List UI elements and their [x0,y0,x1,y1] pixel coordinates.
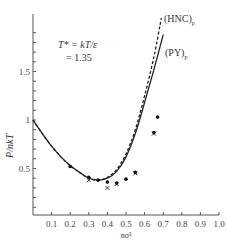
temperature-annotation-line1: T* = kT/ε [58,39,97,50]
data-point-cross [105,186,109,190]
x-tick-label: 0.7 [158,219,170,229]
x-tick-label: 0.9 [195,219,207,229]
x-tick-label: 0.2 [65,219,76,229]
x-tick-label: 0.8 [176,219,188,229]
data-point-dot [106,180,110,184]
x-tick-label: 0.1 [46,219,57,229]
x-axis-label: nσ³ [121,231,132,240]
data-point-dot [68,165,72,169]
temperature-annotation-line2: = 1.35 [66,52,92,63]
y-axis-label: P/nkT [4,133,15,159]
curves [33,18,163,180]
x-tick-label: 1.0 [213,219,225,229]
py-curve-label: (PY)p [165,47,187,60]
py-curve [33,35,163,181]
x-tick-label: 0.3 [83,219,95,229]
y-tick-label: 1.5 [19,67,31,77]
hnc-curve-label: (HNC)p [164,13,195,26]
x-tick-label: 0.5 [120,219,132,229]
hnc-curve [33,18,161,180]
markers [68,115,159,190]
data-point-dot [96,178,100,182]
chart: 0.10.20.30.40.50.60.70.80.91.00.511.5 P/… [0,0,228,247]
data-point-dot [156,115,160,119]
x-tick-label: 0.6 [139,219,151,229]
x-tick-label: 0.4 [102,219,114,229]
data-point-dot [124,177,128,181]
y-tick-label: 0.5 [19,164,31,174]
axes: 0.10.20.30.40.50.60.70.80.91.00.511.5 [19,14,225,229]
y-tick-label: 1 [26,115,31,125]
